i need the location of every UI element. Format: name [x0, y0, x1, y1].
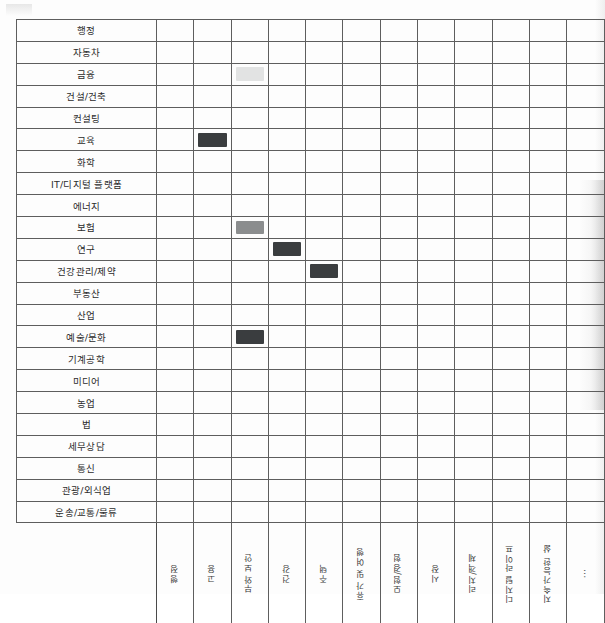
matrix-cell-r22-c0[interactable]: [157, 501, 194, 523]
matrix-cell-r14-c11[interactable]: [567, 326, 604, 348]
matrix-cell-r8-c7[interactable]: [418, 195, 455, 217]
matrix-cell-r2-c0[interactable]: [157, 63, 194, 85]
matrix-cell-r4-c8[interactable]: [455, 107, 492, 129]
matrix-cell-r14-c8[interactable]: [455, 326, 492, 348]
matrix-cell-r1-c10[interactable]: [529, 41, 566, 63]
matrix-cell-r0-c8[interactable]: [455, 20, 492, 42]
matrix-cell-r11-c11[interactable]: [567, 260, 604, 282]
matrix-cell-r9-c6[interactable]: [380, 217, 417, 239]
matrix-cell-r14-c7[interactable]: [418, 326, 455, 348]
matrix-cell-r11-c7[interactable]: [418, 260, 455, 282]
matrix-cell-r1-c6[interactable]: [380, 41, 417, 63]
matrix-cell-r12-c11[interactable]: [567, 282, 604, 304]
matrix-cell-r8-c5[interactable]: [343, 195, 380, 217]
matrix-cell-r21-c3[interactable]: [268, 479, 305, 501]
matrix-cell-r11-c1[interactable]: [194, 260, 231, 282]
matrix-cell-r1-c4[interactable]: [306, 41, 343, 63]
matrix-cell-r21-c6[interactable]: [380, 479, 417, 501]
matrix-cell-r6-c6[interactable]: [380, 151, 417, 173]
matrix-cell-r19-c3[interactable]: [268, 435, 305, 457]
matrix-cell-r13-c7[interactable]: [418, 304, 455, 326]
matrix-cell-r14-c9[interactable]: [492, 326, 529, 348]
matrix-cell-r1-c3[interactable]: [268, 41, 305, 63]
column-header-11[interactable]: ⋯: [567, 523, 604, 623]
matrix-cell-r22-c3[interactable]: [268, 501, 305, 523]
matrix-cell-r16-c0[interactable]: [157, 370, 194, 392]
matrix-cell-r0-c10[interactable]: [529, 20, 566, 42]
matrix-cell-r6-c0[interactable]: [157, 151, 194, 173]
matrix-cell-r16-c6[interactable]: [380, 370, 417, 392]
matrix-cell-r0-c7[interactable]: [418, 20, 455, 42]
matrix-cell-r16-c8[interactable]: [455, 370, 492, 392]
matrix-cell-r12-c0[interactable]: [157, 282, 194, 304]
matrix-cell-r9-c11[interactable]: [567, 217, 604, 239]
matrix-cell-r9-c8[interactable]: [455, 217, 492, 239]
matrix-cell-r13-c3[interactable]: [268, 304, 305, 326]
matrix-cell-r1-c8[interactable]: [455, 41, 492, 63]
matrix-cell-r9-c3[interactable]: [268, 217, 305, 239]
matrix-cell-r13-c5[interactable]: [343, 304, 380, 326]
matrix-cell-r21-c10[interactable]: [529, 479, 566, 501]
matrix-cell-r18-c7[interactable]: [418, 414, 455, 436]
matrix-cell-r12-c7[interactable]: [418, 282, 455, 304]
matrix-cell-r11-c0[interactable]: [157, 260, 194, 282]
matrix-cell-r0-c1[interactable]: [194, 20, 231, 42]
matrix-cell-r7-c1[interactable]: [194, 173, 231, 195]
matrix-cell-r21-c5[interactable]: [343, 479, 380, 501]
matrix-cell-r22-c2[interactable]: [231, 501, 268, 523]
matrix-cell-r15-c5[interactable]: [343, 348, 380, 370]
matrix-cell-r7-c6[interactable]: [380, 173, 417, 195]
matrix-cell-r5-c0[interactable]: [157, 129, 194, 151]
matrix-cell-r22-c1[interactable]: [194, 501, 231, 523]
column-header-3[interactable]: 건강: [268, 523, 305, 623]
matrix-cell-r5-c6[interactable]: [380, 129, 417, 151]
matrix-cell-r13-c6[interactable]: [380, 304, 417, 326]
matrix-cell-r4-c0[interactable]: [157, 107, 194, 129]
matrix-cell-r22-c5[interactable]: [343, 501, 380, 523]
matrix-cell-r12-c4[interactable]: [306, 282, 343, 304]
matrix-cell-r18-c4[interactable]: [306, 414, 343, 436]
matrix-cell-r14-c6[interactable]: [380, 326, 417, 348]
matrix-cell-r11-c3[interactable]: [268, 260, 305, 282]
column-header-9[interactable]: 디지털 라이프: [492, 523, 529, 623]
matrix-cell-r14-c4[interactable]: [306, 326, 343, 348]
matrix-cell-r0-c0[interactable]: [157, 20, 194, 42]
matrix-cell-r12-c2[interactable]: [231, 282, 268, 304]
matrix-cell-r7-c7[interactable]: [418, 173, 455, 195]
matrix-cell-r2-c4[interactable]: [306, 63, 343, 85]
matrix-cell-r17-c0[interactable]: [157, 392, 194, 414]
matrix-cell-r2-c8[interactable]: [455, 63, 492, 85]
matrix-cell-r11-c4[interactable]: [306, 260, 343, 282]
matrix-cell-r3-c11[interactable]: [567, 85, 604, 107]
matrix-cell-r19-c11[interactable]: [567, 435, 604, 457]
matrix-cell-r13-c11[interactable]: [567, 304, 604, 326]
matrix-cell-r6-c10[interactable]: [529, 151, 566, 173]
matrix-cell-r22-c10[interactable]: [529, 501, 566, 523]
matrix-cell-r17-c5[interactable]: [343, 392, 380, 414]
matrix-cell-r18-c0[interactable]: [157, 414, 194, 436]
matrix-cell-r1-c0[interactable]: [157, 41, 194, 63]
matrix-cell-r4-c11[interactable]: [567, 107, 604, 129]
matrix-cell-r8-c11[interactable]: [567, 195, 604, 217]
matrix-cell-r20-c10[interactable]: [529, 457, 566, 479]
matrix-cell-r18-c5[interactable]: [343, 414, 380, 436]
matrix-cell-r3-c1[interactable]: [194, 85, 231, 107]
matrix-cell-r10-c11[interactable]: [567, 238, 604, 260]
matrix-cell-r10-c3[interactable]: [268, 238, 305, 260]
matrix-cell-r8-c4[interactable]: [306, 195, 343, 217]
matrix-cell-r3-c5[interactable]: [343, 85, 380, 107]
matrix-cell-r1-c7[interactable]: [418, 41, 455, 63]
matrix-cell-r17-c4[interactable]: [306, 392, 343, 414]
matrix-cell-r19-c0[interactable]: [157, 435, 194, 457]
matrix-cell-r19-c2[interactable]: [231, 435, 268, 457]
matrix-cell-r18-c10[interactable]: [529, 414, 566, 436]
matrix-cell-r16-c7[interactable]: [418, 370, 455, 392]
matrix-cell-r9-c7[interactable]: [418, 217, 455, 239]
matrix-cell-r4-c3[interactable]: [268, 107, 305, 129]
matrix-cell-r20-c3[interactable]: [268, 457, 305, 479]
matrix-cell-r22-c11[interactable]: [567, 501, 604, 523]
matrix-cell-r21-c8[interactable]: [455, 479, 492, 501]
matrix-cell-r5-c5[interactable]: [343, 129, 380, 151]
column-header-2[interactable]: 부와 보안: [231, 523, 268, 623]
matrix-cell-r0-c3[interactable]: [268, 20, 305, 42]
